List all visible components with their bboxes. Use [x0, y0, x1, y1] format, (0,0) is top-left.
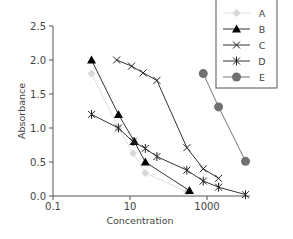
data-point: [200, 165, 207, 172]
series-a: [88, 70, 191, 196]
data-point: [141, 169, 149, 177]
data-point: [183, 144, 190, 151]
legend-label: C: [259, 40, 266, 51]
legend-label: D: [258, 56, 265, 67]
data-point: [88, 110, 95, 119]
legend-marker: [232, 73, 241, 82]
data-point: [199, 69, 208, 78]
data-point: [140, 69, 147, 76]
data-point: [214, 102, 223, 111]
legend-label: E: [259, 72, 265, 83]
legend-label: B: [259, 24, 266, 35]
y-tick-label: 1.5: [30, 89, 46, 100]
x-tick-label: 10: [124, 201, 137, 212]
y-tick-label: 0.0: [30, 191, 46, 202]
y-axis-title: Absorbance: [16, 83, 27, 139]
y-tick-label: 2.0: [30, 55, 46, 66]
x-axis-title: Concentration: [106, 215, 173, 226]
data-point: [241, 157, 250, 166]
data-point: [153, 152, 160, 161]
data-point: [113, 57, 120, 64]
series-line: [92, 114, 246, 194]
y-tick-label: 2.5: [30, 21, 46, 32]
y-tick-label: 1.0: [30, 123, 46, 134]
data-point: [128, 63, 135, 70]
chart: 0.00.51.01.52.02.5 0.1101000 Absorbance …: [0, 0, 293, 239]
data-point: [242, 190, 249, 199]
data-point: [129, 149, 137, 157]
legend: ABCDE: [216, 0, 277, 88]
x-tick-label: 1000: [194, 201, 219, 212]
data-point: [142, 144, 149, 153]
data-point: [114, 110, 123, 118]
x-ticks: 0.1101000: [45, 196, 220, 212]
series-d: [88, 110, 249, 199]
legend-label: A: [259, 8, 266, 19]
series-line: [92, 74, 187, 192]
data-point: [87, 56, 96, 64]
data-point: [200, 177, 207, 186]
y-ticks: 0.00.51.01.52.02.5: [30, 21, 53, 202]
data-point: [215, 183, 222, 192]
series-line: [92, 60, 190, 191]
data-point: [88, 70, 96, 78]
y-tick-label: 0.5: [30, 157, 46, 168]
data-point: [141, 158, 150, 166]
data-point: [215, 175, 222, 182]
x-tick-label: 0.1: [45, 201, 61, 212]
data-point: [183, 166, 190, 175]
data-point: [153, 77, 160, 84]
